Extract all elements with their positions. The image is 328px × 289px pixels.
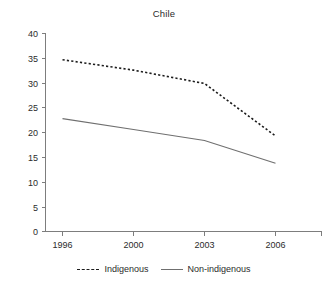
y-tick-label-40: 40 (28, 29, 38, 39)
chart-legend: Indigenous Non-indigenous (0, 264, 328, 274)
y-tick-label-0: 0 (33, 227, 38, 237)
x-tick-label-1996: 1996 (52, 240, 72, 250)
y-tick-label-35: 35 (28, 54, 38, 64)
x-axis-tick-labels: 1996 2000 2003 2006 (52, 240, 285, 250)
chart-plot-area: 40 35 30 25 20 15 10 5 0 1996 2000 2003 … (0, 0, 328, 262)
x-axis-ticks (63, 232, 322, 237)
x-tick-label-2006: 2006 (265, 240, 285, 250)
y-tick-label-25: 25 (28, 103, 38, 113)
y-tick-label-15: 15 (28, 153, 38, 163)
legend-label-non-indigenous: Non-indigenous (188, 264, 251, 274)
y-axis-tick-labels: 40 35 30 25 20 15 10 5 0 (28, 29, 38, 237)
dashed-line-swatch-icon (77, 269, 99, 270)
legend-entry-non-indigenous: Non-indigenous (161, 264, 251, 274)
legend-entry-indigenous: Indigenous (77, 264, 148, 274)
y-tick-label-10: 10 (28, 178, 38, 188)
x-tick-label-2003: 2003 (194, 240, 214, 250)
series-line-non-indigenous (63, 119, 276, 164)
y-tick-label-30: 30 (28, 79, 38, 89)
legend-label-indigenous: Indigenous (104, 264, 148, 274)
y-axis-ticks (42, 34, 46, 232)
solid-line-swatch-icon (161, 269, 183, 270)
x-tick-label-2000: 2000 (123, 240, 143, 250)
y-tick-label-5: 5 (33, 203, 38, 213)
series-line-indigenous (63, 60, 276, 136)
y-tick-label-20: 20 (28, 128, 38, 138)
chart-container: Chile 40 35 30 25 20 15 10 5 0 (0, 0, 328, 289)
